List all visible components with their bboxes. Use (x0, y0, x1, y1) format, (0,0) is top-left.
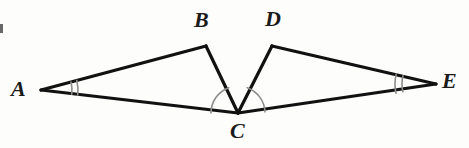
segment-AB (41, 46, 206, 90)
vertex-label-d: D (265, 8, 281, 30)
angle-mark-A-arc-1 (71, 82, 72, 94)
angle-mark-E-arc-2 (395, 74, 396, 93)
segment-BC (206, 46, 238, 113)
vertex-label-b: B (194, 9, 209, 31)
segment-AC (41, 90, 238, 113)
vertex-label-c: C (230, 120, 245, 142)
segments-group (41, 46, 436, 113)
vertex-label-e: E (442, 70, 457, 92)
segment-CE (238, 84, 436, 113)
scan-edge-artifact (0, 24, 3, 33)
segment-CD (238, 46, 272, 113)
vertex-label-a: A (11, 78, 26, 100)
angle-mark-E-arc-1 (402, 76, 403, 92)
segment-DE (272, 46, 436, 84)
geometry-figure: A B C D E (0, 0, 469, 148)
